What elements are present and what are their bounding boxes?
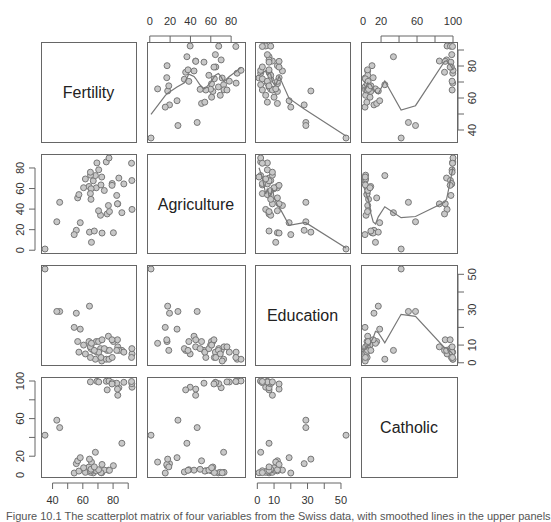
data-point: [99, 174, 105, 180]
data-point: [276, 381, 282, 387]
tick-label: 60: [77, 494, 89, 506]
tick-label: 60: [14, 412, 26, 424]
data-point: [367, 185, 373, 191]
tick-label: 60: [205, 15, 217, 27]
data-point: [233, 43, 239, 49]
data-point: [450, 160, 456, 166]
data-point: [216, 43, 222, 49]
data-point: [362, 232, 368, 238]
data-point: [375, 303, 381, 309]
data-point: [390, 347, 396, 353]
data-point: [165, 303, 171, 309]
top-axis-agriculture: 020406080: [147, 15, 238, 42]
data-point: [266, 228, 272, 234]
variable-label: Education: [267, 307, 338, 324]
data-point: [121, 181, 127, 187]
data-point: [269, 379, 275, 385]
data-point: [109, 381, 115, 387]
data-point: [164, 337, 170, 343]
data-point: [449, 87, 455, 93]
data-point: [221, 449, 227, 455]
data-point: [99, 461, 105, 467]
data-point: [193, 337, 199, 343]
data-point: [212, 52, 218, 58]
data-point: [211, 64, 217, 70]
data-point: [71, 232, 77, 238]
tick-label: 30: [301, 494, 313, 506]
data-point: [187, 43, 193, 49]
panel-education-vs-fertility: [42, 266, 137, 366]
data-point: [75, 339, 81, 345]
tick-label: 40: [184, 15, 196, 27]
data-point: [191, 68, 197, 74]
right-axis-education: 0103050: [458, 268, 478, 366]
data-point: [301, 461, 307, 467]
data-point: [390, 54, 396, 60]
data-point: [276, 58, 282, 64]
data-point: [449, 78, 455, 84]
data-point: [209, 94, 215, 100]
tick-label: 10: [268, 494, 280, 506]
figure-caption: Figure 10.1 The scatterplot matrix of fo…: [6, 510, 551, 522]
data-point: [271, 94, 277, 100]
data-point: [81, 465, 87, 471]
data-point: [377, 326, 383, 332]
data-point: [109, 354, 115, 360]
tick-label: 10: [466, 339, 478, 351]
diagonal-panel-catholic: Catholic: [362, 378, 458, 478]
data-point: [129, 379, 135, 385]
data-point: [164, 63, 170, 69]
data-point: [184, 440, 190, 446]
data-point: [114, 386, 120, 392]
data-point: [174, 326, 180, 332]
panel-education-vs-catholic: [362, 266, 458, 366]
data-point: [194, 119, 200, 125]
data-point: [81, 185, 87, 191]
tick-label: 20: [14, 224, 26, 236]
data-point: [194, 308, 200, 314]
data-point: [162, 104, 168, 110]
right-axis-fertility: 406080: [458, 50, 478, 136]
data-point: [193, 58, 199, 64]
data-point: [276, 461, 282, 467]
data-point: [96, 167, 102, 173]
top-axis-catholic: 02060100: [360, 15, 462, 42]
data-point: [88, 239, 94, 245]
data-point: [54, 308, 60, 314]
tick-label: 60: [466, 92, 478, 104]
tick-label: 30: [466, 304, 478, 316]
data-point: [115, 392, 121, 398]
data-point: [106, 209, 112, 215]
data-point: [96, 379, 102, 385]
data-point: [199, 458, 205, 464]
tick-label: 80: [225, 15, 237, 27]
data-point: [449, 344, 455, 350]
data-point: [224, 379, 230, 385]
data-point: [206, 72, 212, 78]
panel-agriculture-vs-catholic: [362, 155, 458, 254]
data-point: [109, 182, 115, 188]
data-point: [119, 210, 125, 216]
data-point: [166, 347, 172, 353]
data-point: [233, 80, 239, 86]
data-point: [98, 182, 104, 188]
data-point: [269, 169, 275, 175]
tick-label: 40: [466, 124, 478, 136]
data-point: [382, 173, 388, 179]
data-point: [259, 64, 265, 70]
panel-fertility-vs-catholic: [362, 43, 458, 143]
data-point: [73, 310, 79, 316]
panel-catholic-vs-education: [256, 378, 351, 478]
data-point: [185, 467, 191, 473]
data-point: [71, 324, 77, 330]
data-point: [81, 342, 87, 348]
data-point: [259, 379, 265, 385]
data-point: [377, 98, 383, 104]
data-point: [86, 456, 92, 462]
data-point: [276, 182, 282, 188]
data-point: [448, 192, 454, 198]
data-point: [398, 135, 404, 141]
tick-label: 50: [466, 268, 478, 280]
data-point: [87, 169, 93, 175]
data-point: [91, 228, 97, 234]
